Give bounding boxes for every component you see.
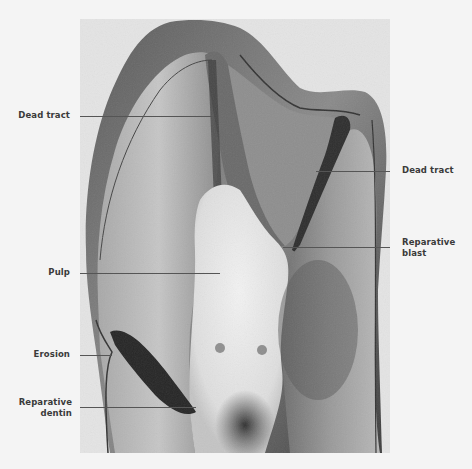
label-text-line1: Reparative — [402, 237, 455, 248]
label-text: Dead tract — [18, 110, 70, 121]
label-erosion: Erosion — [34, 349, 70, 360]
label-reparative-dentin: Reparative dentin — [19, 397, 72, 419]
label-text-line1: Reparative — [19, 397, 72, 408]
label-pulp: Pulp — [48, 267, 70, 278]
leader-erosion — [80, 355, 112, 356]
label-text: Pulp — [48, 267, 70, 278]
leader-dead-tract-left — [80, 116, 212, 117]
label-dead-tract-left: Dead tract — [18, 110, 70, 121]
figure: Dead tract Dead tract Reparative blast P… — [0, 0, 472, 469]
label-text: Dead tract — [402, 165, 454, 176]
label-text: Erosion — [34, 349, 70, 360]
leader-reparative-blast — [283, 247, 390, 248]
label-text-line2: dentin — [19, 408, 72, 419]
label-text-line2: blast — [402, 248, 455, 259]
leader-reparative-dentin — [80, 407, 196, 408]
label-dead-tract-right: Dead tract — [402, 165, 454, 176]
leader-pulp — [80, 273, 220, 274]
leader-dead-tract-right — [316, 171, 390, 172]
label-reparative-blast: Reparative blast — [402, 237, 455, 259]
